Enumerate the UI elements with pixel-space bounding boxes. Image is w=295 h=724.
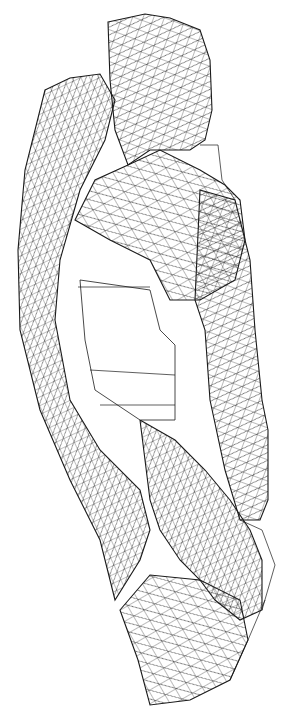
wireframe-mesh-image: [0, 0, 295, 724]
mesh-svg: [0, 0, 295, 724]
inner-opening: [80, 280, 175, 420]
mesh-region-bottom-block: [120, 575, 248, 705]
mesh-region-top-block: [108, 14, 212, 165]
